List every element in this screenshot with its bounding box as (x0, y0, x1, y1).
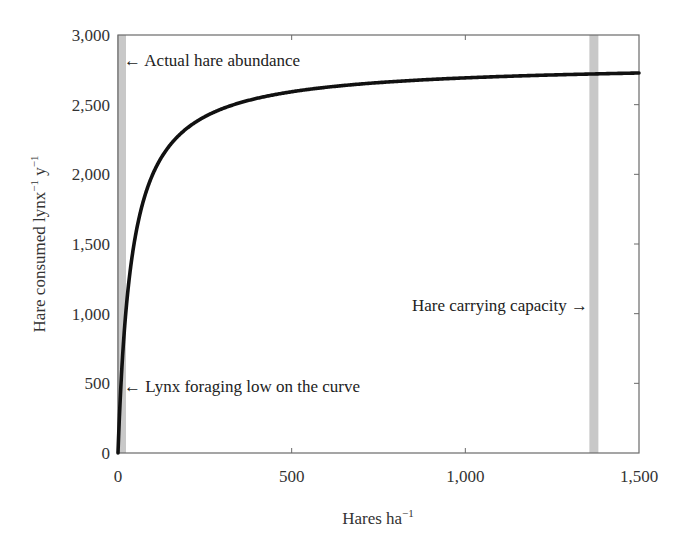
y-tick-label: 1,500 (72, 235, 110, 254)
annotation-actual-hare-abundance: ← Actual hare abundance (124, 51, 300, 70)
y-tick-label: 1,000 (72, 305, 110, 324)
y-axis-title: Hare consumed lynx−1 y−1 (28, 156, 49, 333)
annotation-hare-carrying-capacity: Hare carrying capacity → (412, 296, 588, 315)
y-tick-label: 2,500 (72, 96, 110, 115)
x-tick-label: 1,000 (446, 467, 484, 486)
x-tick-label: 500 (279, 467, 305, 486)
y-tick-label: 3,000 (72, 26, 110, 45)
x-axis-ticks: 05001,0001,500 (114, 35, 658, 486)
annotation-lynx-foraging-low: ← Lynx foraging low on the curve (124, 377, 360, 396)
y-axis-ticks: 05001,0001,5002,0002,5003,000 (72, 26, 639, 463)
y-tick-label: 2,000 (72, 165, 110, 184)
x-tick-label: 1,500 (620, 467, 658, 486)
functional-response-curve (118, 73, 639, 453)
functional-response-chart: 05001,0001,500 05001,0001,5002,0002,5003… (0, 0, 691, 545)
hare-carrying-capacity-band (589, 35, 598, 453)
x-axis-title: Hares ha−1 (342, 507, 414, 528)
y-tick-label: 500 (85, 374, 111, 393)
y-tick-label: 0 (102, 444, 111, 463)
x-tick-label: 0 (114, 467, 123, 486)
